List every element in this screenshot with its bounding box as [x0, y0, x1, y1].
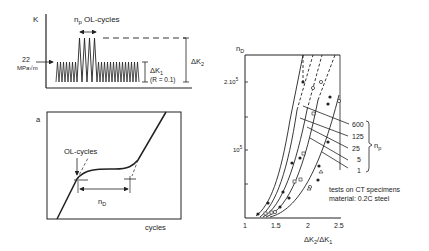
legend-np-600: 600	[352, 121, 364, 128]
x-tick-2-5: 2.5	[334, 222, 344, 229]
delay-vs-overload-chart: nD 2.105 105 1 1.5 2 2.5 ΔK2/ΔK1	[224, 44, 401, 245]
base-level-unit: MPa√m	[17, 65, 38, 71]
dk2-label: ΔK2	[191, 57, 204, 67]
dk1-label: ΔK1	[150, 66, 163, 76]
legend-np-5: 5	[357, 156, 361, 163]
legend-np-125: 125	[352, 133, 364, 140]
legend-np-25: 25	[352, 145, 360, 152]
overload-label: np OL-cycles	[74, 15, 120, 25]
overload-cycles	[77, 38, 97, 82]
ratio-axis-label: ΔK2/ΔK1	[304, 235, 332, 245]
crack-length-axis-label: a	[36, 115, 41, 124]
np-curves	[256, 55, 339, 217]
base-cycles-left	[56, 62, 77, 82]
base-cycles-right	[97, 62, 139, 82]
k-axis-label: K	[33, 15, 39, 24]
legend-brace	[366, 121, 372, 172]
load-sequence-panel: K np OL-cycles 22 MPa√m ΔK1 (R = 0.1) ΔK…	[17, 14, 204, 88]
legend-title: np	[374, 141, 381, 151]
delay-label: nD	[98, 197, 106, 207]
figure-canvas: K np OL-cycles 22 MPa√m ΔK1 (R = 0.1) ΔK…	[0, 0, 429, 251]
note-specimens: tests on CT specimens	[329, 186, 401, 194]
legend-np-1: 1	[357, 167, 361, 174]
nd-axis-label: nD	[236, 44, 244, 54]
ratio-label: (R = 0.1)	[150, 76, 175, 84]
curve-np-600	[256, 55, 303, 216]
crack-growth-panel: a cycles OL-cycles nD	[36, 112, 181, 232]
ol-cycles-annotation: OL-cycles	[64, 147, 98, 156]
x-tick-2: 2	[306, 222, 310, 229]
legend-leaders	[300, 106, 349, 168]
y-tick-2e5: 2.105	[224, 77, 239, 85]
x-tick-1-5: 1.5	[271, 222, 281, 229]
crack-growth-frame	[47, 112, 181, 219]
y-tick-1e5: 105	[233, 145, 243, 153]
cycles-axis-label: cycles	[145, 223, 166, 232]
note-material: material: 0.2C steel	[329, 195, 390, 202]
base-level-value: 22	[22, 56, 30, 63]
crack-growth-curve	[57, 112, 166, 219]
x-tick-1: 1	[243, 222, 247, 229]
